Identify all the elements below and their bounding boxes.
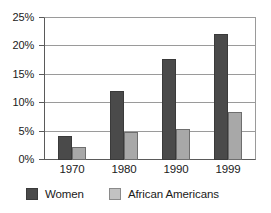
light-gray-swatch-icon (109, 188, 121, 200)
x-tick-label-1999: 1999 (203, 163, 253, 176)
x-tick-label-1970: 1970 (47, 163, 97, 176)
bar-african-1980 (124, 132, 138, 160)
x-axis: 1970 1980 1990 1999 (45, 163, 255, 179)
x-tick-label-1990: 1990 (151, 163, 201, 176)
y-axis: 25% 20% 15% 10% 5% 0% (0, 0, 44, 213)
chart-legend: Women African Americans (26, 188, 219, 200)
bar-women-1999 (214, 34, 228, 160)
legend-label-african-americans: African Americans (128, 188, 219, 200)
y-tick-label-5: 5% (19, 126, 35, 137)
bar-african-1999 (228, 112, 242, 160)
bar-african-1990 (176, 129, 190, 160)
bar-women-1970 (58, 136, 72, 160)
bar-women-1990 (162, 59, 176, 160)
y-tick-label-10: 10% (13, 97, 34, 108)
bar-group-1980 (110, 18, 138, 160)
bar-group-1990 (162, 18, 190, 160)
y-tick-label-0: 0% (19, 154, 35, 165)
bars-layer (45, 18, 255, 160)
x-tick-label-1980: 1980 (99, 163, 149, 176)
legend-item-african-americans: African Americans (109, 188, 219, 200)
y-tick-label-25: 25% (13, 12, 34, 23)
bar-group-1970 (58, 18, 86, 160)
legend-label-women: Women (45, 188, 84, 200)
dark-gray-swatch-icon (26, 188, 38, 200)
y-tick-label-20: 20% (13, 40, 34, 51)
bar-group-1999 (214, 18, 242, 160)
legend-item-women: Women (26, 188, 84, 200)
y-tick-label-15: 15% (13, 69, 34, 80)
bar-women-1980 (110, 91, 124, 160)
bar-chart-figure: 25% 20% 15% 10% 5% 0% (0, 0, 271, 213)
bar-african-1970 (72, 147, 86, 160)
